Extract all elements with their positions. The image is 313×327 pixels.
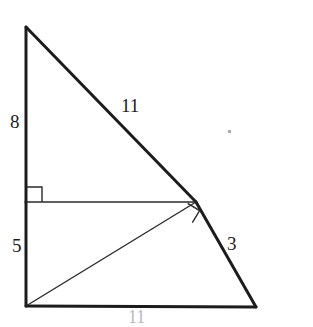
label-side-hypotenuse-lower: 3 xyxy=(227,234,237,253)
label-side-hypotenuse-upper: 11 xyxy=(121,96,139,115)
segment-hypotenuse-lower xyxy=(196,202,256,307)
label-side-left-lower: 5 xyxy=(12,236,22,255)
segment-hypotenuse-upper xyxy=(26,27,196,202)
label-side-left-upper: 8 xyxy=(10,112,20,131)
left-right-angle-icon xyxy=(27,187,42,202)
label-side-base: 11 xyxy=(128,308,145,327)
segment-interior-diagonal xyxy=(26,202,196,306)
stray-speck xyxy=(228,130,231,133)
